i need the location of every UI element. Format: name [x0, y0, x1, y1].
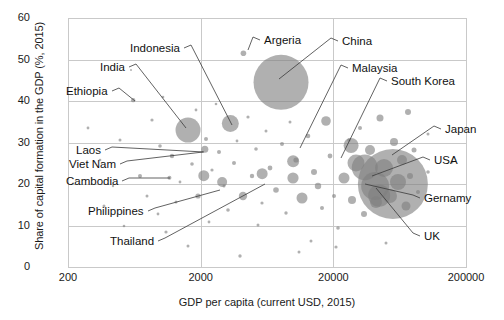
bubble-thailand	[257, 168, 268, 179]
bubble-point	[273, 187, 279, 193]
bubble-malaysia	[287, 155, 299, 167]
bubble-point	[150, 118, 153, 121]
label-malaysia: Malaysia	[352, 62, 397, 74]
bubble-point	[427, 133, 430, 136]
label-usa: USA	[434, 154, 458, 166]
leader-argeria	[248, 37, 260, 50]
bubble-point	[287, 172, 298, 183]
label-uk: UK	[424, 230, 440, 242]
bubble-point	[390, 138, 398, 146]
bubble-point	[297, 193, 308, 204]
bubble-point	[190, 162, 194, 166]
bubble-argeria	[241, 50, 247, 56]
bubble-point	[246, 115, 249, 118]
bubble-point	[87, 127, 90, 130]
bubble-point	[426, 170, 430, 174]
bubble-point	[204, 137, 208, 141]
label-indonesia: Indonesia	[130, 42, 180, 54]
bubble-point	[232, 161, 236, 165]
label-japan: Japan	[445, 123, 476, 135]
bubble-point	[210, 168, 213, 171]
bubble-point	[195, 109, 198, 112]
bubble-point	[412, 148, 417, 153]
bubble-point	[164, 230, 167, 233]
label-gernamy: Gernamy	[424, 192, 471, 204]
bubble-point	[311, 169, 317, 175]
bubble-point	[284, 211, 287, 214]
bubble-point	[226, 208, 230, 212]
bubble-china	[254, 55, 309, 110]
bubble-point	[187, 245, 190, 248]
bubble-point	[208, 221, 211, 224]
gridlines	[68, 18, 466, 267]
leader-laos	[105, 147, 204, 152]
label-cambodia: Cambodia	[66, 175, 118, 187]
leader-india	[129, 64, 186, 128]
bubble-point	[348, 196, 356, 204]
bubble-point	[358, 126, 362, 130]
bubble-point	[238, 254, 241, 257]
label-china: China	[342, 35, 372, 47]
leader-cambodia	[122, 178, 170, 181]
bubble-point	[280, 142, 284, 146]
bubble-point	[254, 147, 258, 151]
bubble-point	[336, 226, 340, 230]
bubble-point	[257, 224, 260, 227]
bubble-point	[215, 103, 218, 106]
bubble-point	[157, 213, 160, 216]
leader-viet-nam	[120, 152, 203, 164]
bubble-south-korea	[344, 138, 359, 153]
label-south-korea: South Korea	[391, 75, 455, 87]
bubble-point	[365, 145, 375, 155]
bubble-point	[377, 115, 384, 122]
bubble-point	[298, 251, 301, 254]
bubble-point	[332, 194, 336, 198]
bubble-point	[179, 181, 182, 184]
bubble-point	[268, 166, 273, 171]
bubble-point	[361, 211, 367, 217]
bubble-point	[123, 225, 126, 228]
label-laos: Laos	[76, 144, 101, 156]
bubble-point	[334, 245, 337, 248]
bubble-point	[310, 240, 313, 243]
bubble-point	[321, 116, 331, 126]
leader-philippines	[148, 190, 220, 211]
bubble-point	[328, 154, 333, 159]
bubble-point	[130, 69, 132, 71]
bubble-point	[265, 130, 268, 133]
bubble-viet-nam	[198, 170, 209, 181]
bubble-indonesia	[222, 115, 239, 132]
bubble-point	[217, 150, 221, 154]
bubble-point	[289, 121, 292, 124]
label-philippines: Philippines	[88, 205, 144, 217]
label-argeria: Argeria	[264, 34, 301, 46]
bubble-point	[385, 242, 388, 245]
bubble-point	[158, 144, 162, 148]
bubble-point	[260, 201, 263, 204]
bubble-uk	[368, 185, 390, 207]
label-viet-nam: Viet Nam	[69, 158, 116, 170]
bubble-philippines	[217, 177, 227, 187]
leader-indonesia	[184, 45, 232, 125]
bubble-point	[146, 195, 149, 198]
bubble-point	[250, 174, 254, 178]
bubble-point	[315, 183, 321, 189]
bubble-india	[176, 118, 201, 143]
label-thailand: Thailand	[110, 235, 154, 247]
bubble-chart: Share of capital formation in the GDP (%…	[0, 0, 504, 320]
label-india: India	[100, 61, 125, 73]
bubble-point	[138, 174, 142, 178]
bubble-point	[236, 140, 239, 143]
label-ethiopia: Ethiopia	[66, 85, 108, 97]
bubble-point	[320, 206, 324, 210]
bubble-point	[339, 173, 350, 184]
bubble-point	[119, 139, 122, 142]
bubble-point	[405, 109, 411, 115]
